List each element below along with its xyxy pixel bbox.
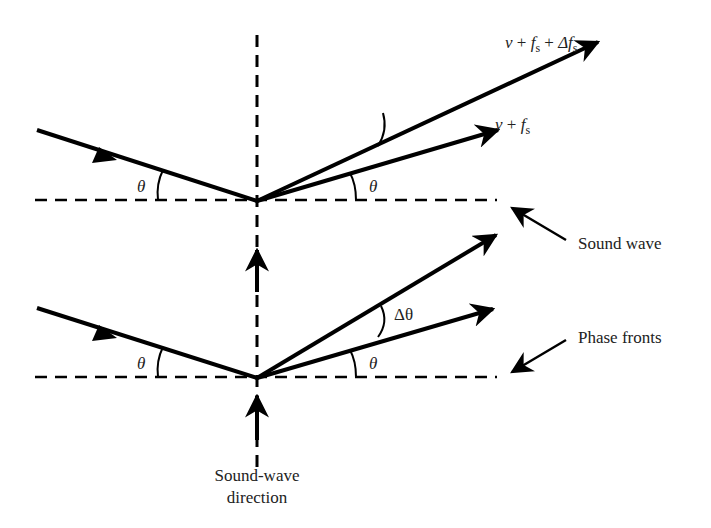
top-panel: θ θ ν + fs + Δfs ν + fs [37,33,598,201]
incident-ray-bottom [37,308,257,378]
beam-label-lower: ν + fs [495,115,530,137]
incident-ray-top [37,130,257,201]
phase-fronts-pointer [512,340,566,372]
theta-label-reflected-bottom: θ [369,354,377,373]
reflected-angle-arc-top [350,173,356,200]
sound-wave-label: Sound wave [578,234,662,253]
diffracted-ray-shifted [257,42,598,201]
theta-label-incident-top: θ [137,177,145,196]
reflected-angle-arc-bottom [350,350,356,377]
theta-label-incident-bottom: θ [137,354,145,373]
sound-wave-direction-label-line2: direction [227,488,288,507]
delta-theta-label: Δθ [394,305,413,324]
theta-label-reflected-top: θ [369,177,377,196]
beam-label-upper: ν + fs + Δfs [505,33,578,55]
incident-angle-arc-top [158,170,163,200]
bottom-panel: θ θ Δθ [37,235,496,378]
sound-wave-direction-label-line1: Sound-wave [215,466,300,485]
phase-fronts-label: Phase fronts [578,328,662,347]
diffracted-ray-top [257,130,498,201]
acousto-optic-diagram: θ θ ν + fs + Δfs ν + fs θ θ Δθ Sound wav… [0,0,711,528]
delta-angle-arc-bottom [378,306,384,337]
incident-angle-arc-bottom [158,347,163,377]
sound-wave-pointer [512,208,566,240]
